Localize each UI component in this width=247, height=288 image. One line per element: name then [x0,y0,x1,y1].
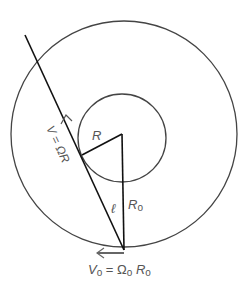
rotating-disk-diagram: R Ro ℓ V = ΩR Vo = Ωo Ro [0,0,247,288]
outer-velocity-label: Vo = Ωo Ro [88,262,151,278]
tangent-line [25,35,124,250]
inner-radius-label: R [92,128,101,143]
outer-radius-line [122,134,124,250]
inner-radius-line [82,134,122,155]
outer-velocity-arrow-icon [97,248,124,258]
length-label: ℓ [111,201,116,216]
outer-radius-label: Ro [128,197,143,213]
